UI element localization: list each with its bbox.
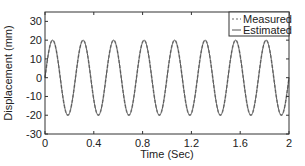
y-tick-label: -20 [26, 109, 42, 121]
y-tick-label: -30 [26, 128, 42, 140]
x-tick-label: 2 [286, 137, 292, 149]
y-tick-labels: -30-20-100102030 [26, 15, 42, 140]
x-tick-label: 0 [42, 137, 48, 149]
displacement-chart: 00.40.81.21.62 -30-20-100102030 Time (Se… [0, 0, 305, 166]
x-tick-label: 1.6 [233, 137, 248, 149]
y-tick-label: 0 [36, 72, 42, 84]
plot-series [45, 40, 289, 115]
y-tick-label: 20 [30, 34, 42, 46]
y-tick-label: -10 [26, 90, 42, 102]
y-tick-label: 30 [30, 15, 42, 27]
y-tick-label: 10 [30, 53, 42, 65]
legend-label-estimated: Estimated [243, 24, 292, 36]
x-tick-label: 0.4 [86, 137, 101, 149]
x-axis-label: Time (Sec) [140, 148, 193, 160]
legend: Measured Estimated [229, 12, 292, 36]
y-axis-label: Displacement (mm) [2, 25, 14, 120]
series-line-estimated [45, 40, 289, 115]
